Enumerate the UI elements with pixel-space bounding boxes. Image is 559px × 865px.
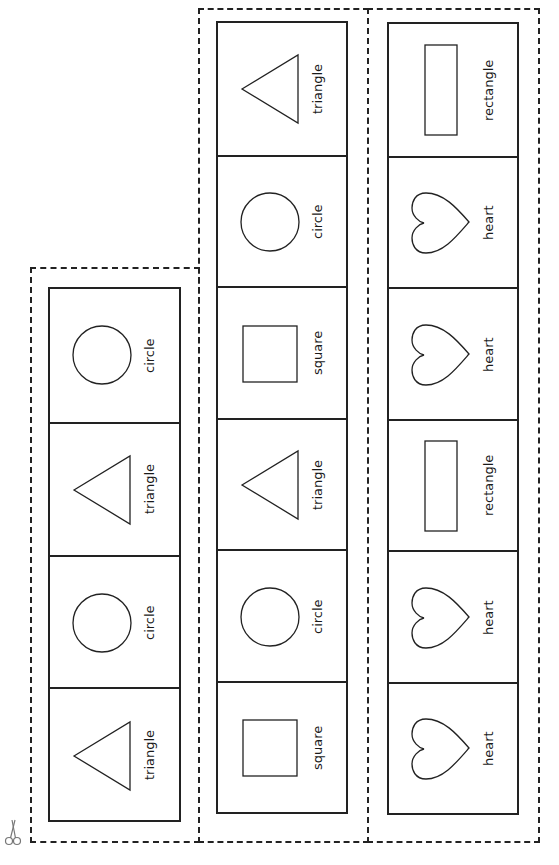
shape-label: heart — [481, 337, 496, 372]
shape-card-heart: heart — [389, 682, 517, 814]
strip-middle: trianglecirclesquaretrianglecirclesquare — [216, 21, 348, 814]
shape-label: circle — [142, 338, 157, 373]
shape-label: triangle — [310, 459, 325, 509]
shape-label: rectangle — [481, 455, 496, 516]
heart-icon — [411, 324, 471, 386]
strip-right: rectangleheartheartrectangleheartheart — [387, 22, 519, 815]
rectangle-icon — [424, 44, 458, 136]
shape-card-rectangle: rectangle — [389, 24, 517, 156]
triangle-icon — [73, 455, 131, 525]
shape-card-square: square — [218, 681, 346, 813]
shape-card-triangle: triangle — [218, 23, 346, 155]
shape-card-rectangle: rectangle — [389, 419, 517, 551]
scissors-icon — [4, 818, 22, 846]
square-icon — [242, 325, 298, 383]
heart-icon — [411, 192, 471, 254]
shape-label: heart — [481, 600, 496, 635]
strip-left: circletrianglecircletriangle — [48, 287, 181, 822]
shape-label: triangle — [142, 464, 157, 514]
shape-label: triangle — [310, 64, 325, 114]
shape-label: heart — [481, 205, 496, 240]
heart-icon — [411, 587, 471, 649]
circle-icon — [72, 325, 132, 385]
circle-icon — [240, 192, 300, 252]
shape-card-circle: circle — [218, 549, 346, 681]
triangle-icon — [73, 721, 131, 791]
shape-card-triangle: triangle — [218, 418, 346, 550]
shape-card-circle: circle — [50, 555, 179, 688]
triangle-icon — [241, 54, 299, 124]
shape-label: circle — [142, 605, 157, 640]
shape-card-heart: heart — [389, 287, 517, 419]
shape-card-triangle: triangle — [50, 422, 179, 555]
shape-label: circle — [310, 599, 325, 634]
circle-icon — [72, 593, 132, 653]
shape-label: circle — [310, 204, 325, 239]
shape-card-triangle: triangle — [50, 687, 179, 820]
shape-card-circle: circle — [50, 289, 179, 422]
shape-label: triangle — [142, 730, 157, 780]
shape-label: rectangle — [481, 59, 496, 120]
shape-label: heart — [481, 731, 496, 766]
shape-card-heart: heart — [389, 550, 517, 682]
shape-label: square — [310, 331, 325, 375]
shape-card-square: square — [218, 286, 346, 418]
triangle-icon — [241, 450, 299, 520]
circle-icon — [240, 587, 300, 647]
heart-icon — [411, 718, 471, 780]
rectangle-icon — [424, 440, 458, 532]
shape-label: square — [310, 725, 325, 769]
shape-card-circle: circle — [218, 155, 346, 287]
shape-card-heart: heart — [389, 156, 517, 288]
square-icon — [242, 719, 298, 777]
